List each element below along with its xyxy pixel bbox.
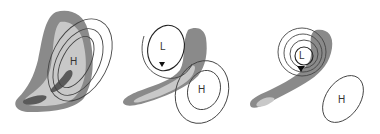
cyclone-evolution-diagram: H L H L H <box>0 0 380 134</box>
panel-stage-2: L H <box>123 21 237 131</box>
high-pressure-label: H <box>198 84 205 95</box>
panel-stage-1: H <box>15 8 125 112</box>
high-pressure-label: H <box>338 94 345 105</box>
low-pressure-label: L <box>160 41 166 52</box>
high-pressure-label: H <box>70 56 77 67</box>
cloud-band-outer <box>250 30 332 108</box>
circulation-arrow-icon <box>159 62 165 67</box>
panel-stage-3: L H <box>250 28 372 130</box>
low-pressure-label: L <box>299 50 305 61</box>
